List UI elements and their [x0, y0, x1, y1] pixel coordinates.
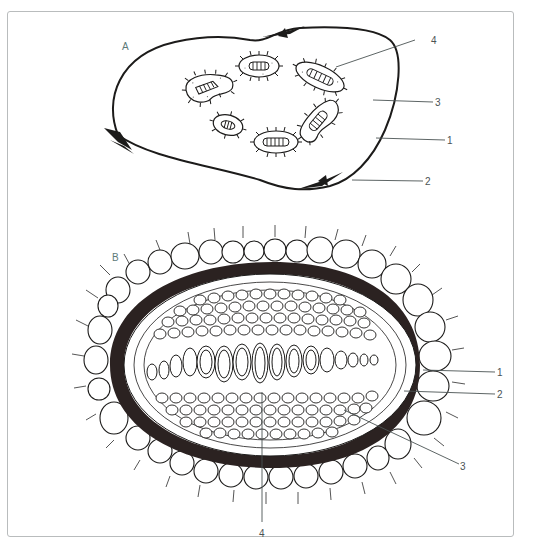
- callout-b-1: 1: [497, 367, 503, 378]
- panel-a-label: A: [122, 41, 129, 52]
- callout-a-3: 3: [435, 97, 441, 108]
- panel-b-label: B: [112, 252, 119, 263]
- panel-b: B: [72, 225, 503, 539]
- callout-a-2: 2: [425, 176, 431, 187]
- leader-a-4: [336, 40, 415, 67]
- vascular-bundle: [206, 107, 250, 144]
- vascular-bundle: [286, 51, 353, 104]
- vascular-bundle: [179, 64, 240, 109]
- vascular-bundle: [250, 127, 302, 157]
- leader-a-3: [373, 100, 433, 102]
- leader-b-2: [404, 391, 495, 394]
- leader-a-1: [376, 138, 445, 140]
- vascular-bundle: [235, 51, 283, 81]
- callout-b-4: 4: [259, 528, 265, 539]
- callout-a-4: 4: [431, 35, 437, 46]
- leader-a-2: [352, 180, 423, 181]
- callout-a-1: 1: [447, 135, 453, 146]
- panel-a-outline: [113, 27, 399, 189]
- panel-a: A: [104, 26, 453, 189]
- diagram-canvas: A: [0, 0, 547, 550]
- callout-b-2: 2: [497, 389, 503, 400]
- callout-b-3: 3: [460, 461, 466, 472]
- node-scale-bottom: [298, 172, 343, 189]
